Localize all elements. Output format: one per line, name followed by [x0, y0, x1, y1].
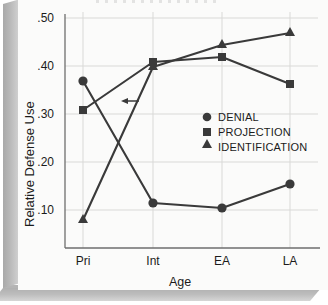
x-axis-title: Age	[150, 275, 210, 289]
figure-scanned-chart: .50 .40 .30 .20 .10 Relative Defense Use…	[0, 0, 328, 305]
bevel-shadow-left	[3, 0, 18, 288]
square-marker-icon	[203, 128, 211, 136]
circle-marker-icon	[203, 113, 212, 122]
xtick-label-ea: EA	[202, 254, 242, 268]
marker-identification-pri	[78, 214, 88, 223]
series-projection-line	[83, 57, 290, 110]
marker-projection-la	[286, 80, 294, 88]
xtick-label-pri: Pri	[63, 254, 103, 268]
series-projection-markers	[79, 53, 294, 114]
xtick-label-int: Int	[133, 254, 173, 268]
marker-denial-int	[148, 198, 157, 207]
legend-markers	[202, 113, 212, 148]
ytick-label-40: .40	[28, 59, 54, 73]
legend-label-identification: IDENTIFICATION	[218, 141, 307, 153]
xtick-label-la: LA	[270, 254, 310, 268]
marker-denial-la	[285, 179, 294, 188]
marker-projection-int	[149, 58, 157, 66]
marker-projection-ea	[218, 53, 226, 61]
ytick-label-50: .50	[28, 11, 54, 25]
marker-denial-ea	[217, 203, 226, 212]
marker-identification-la	[285, 27, 295, 36]
legend-label-denial: DENIAL	[218, 111, 259, 123]
marker-projection-pri	[79, 106, 87, 114]
series-projection	[83, 57, 290, 110]
y-axis-title: Relative Defense Use	[22, 101, 37, 227]
legend-label-projection: PROJECTION	[218, 126, 291, 138]
triangle-marker-icon	[202, 139, 212, 148]
marker-denial-pri	[78, 76, 87, 85]
